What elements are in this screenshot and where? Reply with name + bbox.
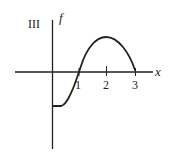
function-graph: III f x 1 2 3 bbox=[0, 0, 169, 155]
x-axis-label: x bbox=[154, 64, 161, 79]
panel-label: III bbox=[28, 17, 40, 31]
tick-label-3: 3 bbox=[132, 78, 138, 92]
tick-label-2: 2 bbox=[103, 78, 109, 92]
tick-label-1: 1 bbox=[75, 78, 81, 92]
y-axis-label: f bbox=[59, 10, 65, 25]
